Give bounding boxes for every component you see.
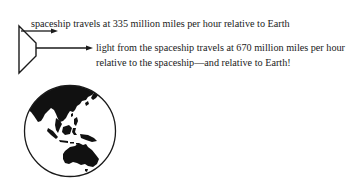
light-speed-label-line1: light from the spaceship travels at 670 … (96, 41, 345, 55)
spaceship-icon (19, 26, 36, 73)
light-arrow-icon (36, 46, 93, 51)
spaceship-speed-label: spaceship travels at 335 million miles p… (31, 17, 290, 31)
globe-icon (24, 84, 116, 177)
light-speed-label-line2: relative to the spaceship—and relative t… (96, 56, 291, 70)
